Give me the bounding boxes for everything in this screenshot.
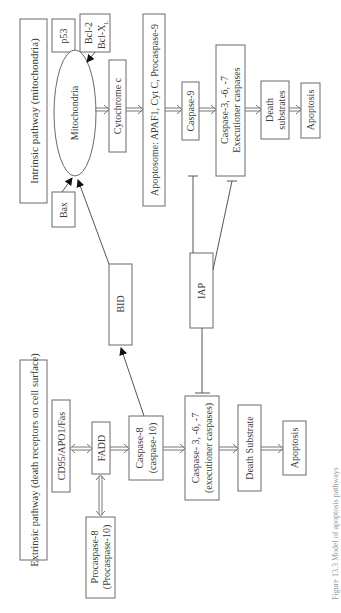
- death-substrate-to-apoptosis-arrow: [261, 444, 283, 453]
- caspase367-to-death-substrate-arrow: [219, 444, 238, 453]
- cd95-label: CD95/APO1/Fas: [56, 412, 67, 480]
- fadd-to-caspase8-arrow: [110, 444, 129, 453]
- death-substrates-to-apoptosis-arrow: [289, 105, 301, 114]
- intrinsic-executioner-label: Executioner caspases: [231, 67, 242, 152]
- caspase8-to-caspase367-arrow: [163, 444, 185, 453]
- extrinsic-apoptosis-label: Apoptosis: [289, 428, 300, 469]
- caspase-8-label: Caspase-8: [134, 427, 145, 468]
- p53-label: p53: [58, 29, 69, 44]
- bid-label: BID: [115, 295, 126, 312]
- extrinsic-executioner-label: (executioner caspases): [203, 403, 215, 493]
- death-label: Death: [264, 98, 275, 122]
- bax-to-mitochondria-arrow: [62, 178, 72, 192]
- apoptosis-pathway-diagram: Intrinsic pathway (mitochondria) p53 Bcl…: [0, 0, 341, 613]
- mitochondria-to-cytochrome-arrow: [95, 105, 109, 114]
- fadd-procaspase-bidirectional-arrow: [96, 475, 105, 516]
- procaspase-10-label: (Procaspase-10): [101, 525, 113, 589]
- cd95-fadd-bidirectional-arrow: [70, 444, 92, 453]
- substrates-label: substrates: [276, 90, 287, 130]
- intrinsic-pathway-title: Intrinsic pathway (mitochondria): [28, 38, 41, 184]
- caspase8-to-bid-arrow: [121, 348, 144, 416]
- extrinsic-pathway: Extrinsic pathway (death receptors on ce…: [20, 353, 306, 598]
- mitochondria-label: Mitochondria: [69, 85, 80, 140]
- procaspase-8-label: Procaspase-8: [89, 531, 100, 584]
- intrinsic-apoptosis-label: Apoptosis: [305, 90, 316, 131]
- intrinsic-pathway: Intrinsic pathway (mitochondria) p53 Bcl…: [20, 14, 320, 227]
- bid-to-mitochondria-arrow: [78, 180, 109, 264]
- caspase-10-label: (caspase-10): [147, 423, 159, 474]
- death-substrate-label: Death Substrate: [244, 416, 255, 480]
- iap-inhibits-intrinsic-caspase3-line: [213, 181, 232, 270]
- caspase-9-label: Caspase-9: [185, 90, 196, 131]
- extrinsic-pathway-title: Extrinsic pathway (death receptors on ce…: [29, 353, 41, 567]
- intrinsic-caspase367-label: Caspase-3, -6, -7: [219, 76, 230, 144]
- cytochrome-to-apoptosome-arrow: [126, 105, 143, 114]
- caspase367-to-death-substrates-arrow: [245, 105, 261, 114]
- apoptosome-to-caspase9-arrow: [165, 105, 182, 114]
- extrinsic-caspase367-label: Caspase- 3, -6, -7: [190, 413, 201, 483]
- apoptosome-label: Apoptosome: APAF1, Cyt C, Procaspase-9: [149, 24, 160, 196]
- cytochrome-c-label: Cytochrome c: [112, 77, 123, 134]
- bcl2-label: Bcl-2: [83, 22, 94, 44]
- figure-caption: Figure 13.3 Model of apoptosis pathways: [331, 467, 340, 600]
- fadd-label: FADD: [96, 435, 107, 461]
- bcl-to-mitochondria-arrow: [87, 52, 95, 62]
- caspase9-to-caspase367-arrow: [199, 105, 216, 114]
- iap-label: IAP: [196, 283, 207, 300]
- bax-label: Bax: [58, 202, 69, 218]
- crosstalk: BID IAP: [78, 176, 237, 416]
